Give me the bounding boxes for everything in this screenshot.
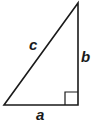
right-angle-marker	[65, 92, 78, 105]
triangle-outline	[4, 3, 78, 105]
label-side-c: c	[29, 36, 38, 53]
label-side-a: a	[36, 106, 44, 123]
label-side-b: b	[81, 48, 90, 65]
right-triangle-diagram: c b a	[0, 0, 92, 125]
